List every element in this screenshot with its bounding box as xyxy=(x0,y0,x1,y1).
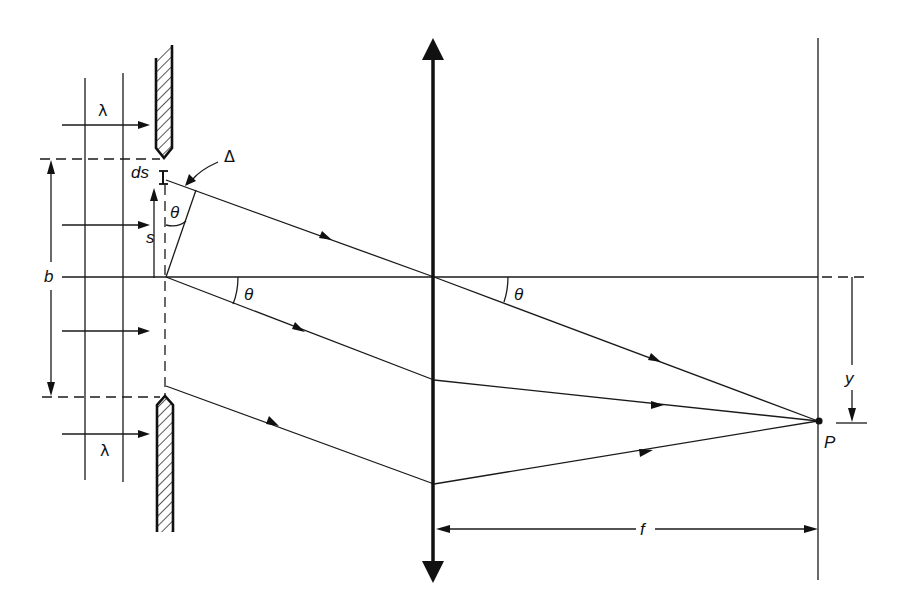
focal-length-label: f xyxy=(640,520,647,539)
element-width-label: ds xyxy=(131,163,149,182)
diffraction-diagram: λ λ b ds s Δ θ xyxy=(0,0,914,611)
angle-label-lens: θ xyxy=(514,285,524,304)
slit-barrier-bottom xyxy=(157,396,173,532)
path-difference-label: Δ xyxy=(224,147,235,166)
element-ds xyxy=(159,171,168,184)
slit-width-label: b xyxy=(44,267,53,286)
observation-point-label: P xyxy=(824,433,836,452)
angle-arc-slit xyxy=(233,277,238,304)
element-position-label: s xyxy=(146,228,155,247)
observation-point xyxy=(815,417,822,424)
delta-pointer xyxy=(192,162,218,180)
rays-to-lens xyxy=(166,180,434,484)
angle-label-slit: θ xyxy=(244,285,254,304)
screen-offset-dimension xyxy=(836,277,867,423)
wavelength-label-bottom: λ xyxy=(100,441,109,460)
wavelength-label-top: λ xyxy=(98,101,107,120)
focal-length-dimension xyxy=(436,525,818,533)
screen-offset-label: y xyxy=(844,369,855,388)
slit-barrier-top xyxy=(156,45,172,158)
angle-label-element: θ xyxy=(170,203,180,222)
converging-lens xyxy=(422,38,444,583)
rays-to-screen xyxy=(434,277,818,484)
angle-arc-lens xyxy=(504,277,508,302)
